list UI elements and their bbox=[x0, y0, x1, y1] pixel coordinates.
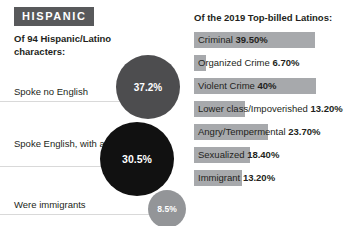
trait-text: Violent Crime 40% bbox=[186, 80, 277, 91]
infographic-root: HISPANIC Of 94 Hispanic/Latino character… bbox=[0, 0, 364, 226]
trait-text: Sexualized 18.40% bbox=[186, 149, 279, 160]
bubble-were-immigrants: 8.5% bbox=[148, 190, 186, 226]
trait-value: 13.20% bbox=[243, 172, 275, 183]
trait-item-immigrant: Immigrant 13.20% bbox=[186, 168, 364, 191]
trait-item-lower-class: Lower class/Impoverished 13.20% bbox=[186, 99, 364, 122]
trait-name: Immigrant bbox=[198, 172, 240, 183]
trait-value: 40% bbox=[258, 80, 277, 91]
trait-value: 13.20% bbox=[310, 103, 342, 114]
left-panel-heading: Of 94 Hispanic/Latino characters: bbox=[14, 33, 146, 58]
stat-divider bbox=[0, 214, 162, 215]
right-panel-heading: Of the 2019 Top-billed Latinos: bbox=[194, 12, 332, 23]
trait-item-angry-tempermental: Angry/Tempermental 23.70% bbox=[186, 122, 364, 145]
trait-text: Lower class/Impoverished 13.20% bbox=[186, 103, 343, 114]
hispanic-stats-panel: HISPANIC Of 94 Hispanic/Latino character… bbox=[0, 0, 186, 226]
trait-value: 6.70% bbox=[272, 57, 299, 68]
trait-name: Violent Crime bbox=[198, 80, 255, 91]
bubble-spoke-no-english: 37.2% bbox=[116, 55, 180, 119]
trait-value: 23.70% bbox=[288, 126, 320, 137]
trait-name: Organized Crime bbox=[198, 57, 270, 68]
trait-text: Angry/Tempermental 23.70% bbox=[186, 126, 321, 137]
trait-name: Criminal bbox=[198, 34, 233, 45]
trait-name: Lower class/Impoverished bbox=[198, 103, 308, 114]
trait-item-violent-crime: Violent Crime 40% bbox=[186, 76, 364, 99]
trait-list: Criminal 39.50% Organized Crime 6.70% Vi… bbox=[186, 30, 364, 191]
bubble-spoke-english-accent: 30.5% bbox=[100, 122, 174, 196]
trait-value: 18.40% bbox=[247, 149, 279, 160]
hispanic-badge: HISPANIC bbox=[14, 7, 94, 26]
trait-name: Angry/Tempermental bbox=[198, 126, 286, 137]
trait-text: Criminal 39.50% bbox=[186, 34, 268, 45]
top-billed-latinos-panel: Of the 2019 Top-billed Latinos: Criminal… bbox=[186, 0, 364, 226]
trait-text: Organized Crime 6.70% bbox=[186, 57, 299, 68]
trait-value: 39.50% bbox=[235, 34, 267, 45]
trait-name: Sexualized bbox=[198, 149, 244, 160]
trait-item-sexualized: Sexualized 18.40% bbox=[186, 145, 364, 168]
trait-item-criminal: Criminal 39.50% bbox=[186, 30, 364, 53]
trait-item-organized-crime: Organized Crime 6.70% bbox=[186, 53, 364, 76]
trait-text: Immigrant 13.20% bbox=[186, 172, 275, 183]
